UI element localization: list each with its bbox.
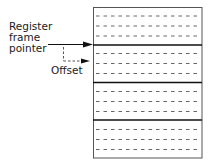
frame-pointer-arrow bbox=[48, 42, 93, 48]
arrowhead-icon bbox=[83, 42, 93, 48]
offset-arrow bbox=[64, 47, 91, 64]
register-file-diagram bbox=[0, 0, 214, 167]
arrowhead-icon bbox=[81, 59, 90, 64]
frame-separators bbox=[93, 45, 202, 120]
